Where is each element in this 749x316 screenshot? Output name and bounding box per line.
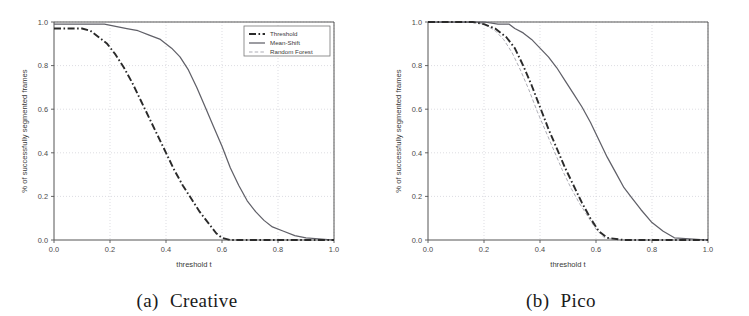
panel-a-caption: (a) Creative [0,290,374,312]
plot-area-a: 0.00.20.40.60.81.00.00.20.40.60.81.0thre… [0,0,374,272]
plot-area-b: 0.00.20.40.60.81.00.00.20.40.60.81.0thre… [374,0,748,272]
figure-row: 0.00.20.40.60.81.00.00.20.40.60.81.0thre… [0,0,749,316]
legend-label-random-forest: Random Forest [270,48,313,55]
legend-label-threshold: Threshold [270,30,298,37]
x-tick-label: 1.0 [329,245,339,254]
x-tick-label: 0.0 [423,245,433,254]
panel-a: 0.00.20.40.60.81.00.00.20.40.60.81.0thre… [0,0,374,316]
y-tick-label: 0.8 [412,61,422,70]
y-axis-title: % of successfully segmented frames [394,69,403,192]
panel-a-caption-label: (a) [136,290,158,311]
x-axis-title: threshold t [176,260,212,269]
y-tick-label: 0.4 [412,149,422,158]
x-tick-label: 0.6 [591,245,601,254]
x-axis-title: threshold t [550,260,586,269]
series-line-threshold [428,22,708,240]
x-tick-label: 0.2 [479,245,489,254]
x-tick-label: 0.0 [49,245,59,254]
series-line-random-forest [428,22,708,240]
y-tick-label: 0.0 [38,236,48,245]
series-line-threshold [54,29,334,240]
panel-a-caption-title: Creative [170,290,238,311]
y-tick-label: 0.2 [412,192,422,201]
panel-b-caption-label: (b) [526,290,549,311]
x-tick-label: 1.0 [703,245,713,254]
x-tick-label: 0.2 [105,245,115,254]
series-line-mean-shift [428,22,708,240]
chart-svg-b: 0.00.20.40.60.81.00.00.20.40.60.81.0thre… [374,0,748,272]
y-tick-label: 1.0 [412,18,422,27]
y-tick-label: 0.4 [38,149,48,158]
y-axis-title: % of successfully segmented frames [20,69,29,192]
series-line-mean-shift [54,24,334,240]
plot-frame [428,22,708,240]
chart-svg-a: 0.00.20.40.60.81.00.00.20.40.60.81.0thre… [0,0,374,272]
y-tick-label: 0.8 [38,61,48,70]
panel-b-caption-title: Pico [561,290,596,311]
x-tick-label: 0.8 [647,245,657,254]
panel-b: 0.00.20.40.60.81.00.00.20.40.60.81.0thre… [374,0,748,316]
y-tick-label: 1.0 [38,18,48,27]
legend-label-mean-shift: Mean-Shift [270,39,300,46]
x-tick-label: 0.6 [217,245,227,254]
y-tick-label: 0.0 [412,236,422,245]
y-tick-label: 0.2 [38,192,48,201]
y-tick-label: 0.6 [412,105,422,114]
y-tick-label: 0.6 [38,105,48,114]
x-tick-label: 0.8 [273,245,283,254]
x-tick-label: 0.4 [535,245,545,254]
panel-b-caption: (b) Pico [374,290,748,312]
x-tick-label: 0.4 [161,245,171,254]
